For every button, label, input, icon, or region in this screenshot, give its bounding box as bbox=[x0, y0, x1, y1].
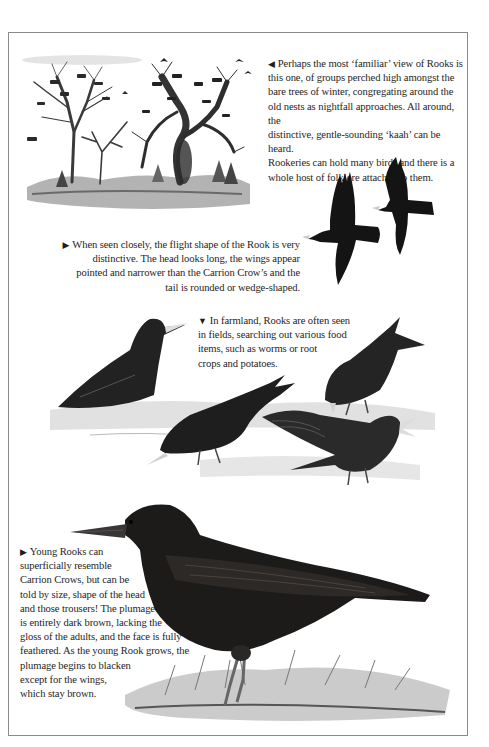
down-arrow-icon: ▼ bbox=[198, 316, 207, 326]
two-flying-rooks-illustration bbox=[300, 155, 445, 290]
young-rook-caption: ▶Young Rooks can superficially resemble … bbox=[20, 545, 220, 701]
farmland-caption: ▼In farmland, Rooks are often seen in fi… bbox=[198, 314, 358, 371]
left-arrow-icon: ◀ bbox=[268, 59, 275, 69]
right-arrow-icon: ▶ bbox=[62, 240, 69, 250]
rookery-trees-illustration bbox=[22, 52, 252, 212]
right-arrow-icon: ▶ bbox=[20, 547, 27, 557]
flight-caption: ▶When seen closely, the flight shape of … bbox=[60, 238, 300, 295]
